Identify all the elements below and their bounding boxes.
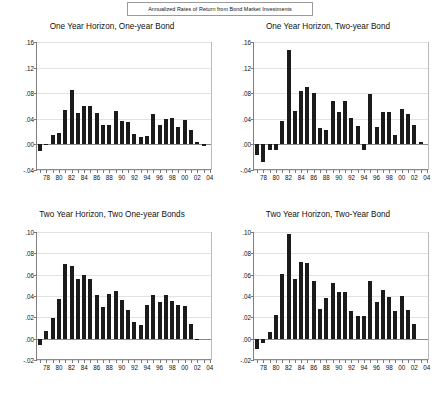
x-tick-mark bbox=[166, 360, 167, 363]
x-tick-mark bbox=[53, 170, 54, 173]
bar bbox=[400, 296, 404, 339]
bar bbox=[356, 126, 360, 145]
x-tick-mark bbox=[414, 360, 415, 363]
x-tick-label: 80 bbox=[272, 364, 279, 371]
bar bbox=[170, 301, 174, 338]
bar bbox=[268, 144, 272, 150]
bar bbox=[82, 106, 86, 144]
x-tick-label: 80 bbox=[272, 174, 279, 181]
chart-panel-one-year-horizon-two-year-bond: One Year Horizon, Two-year Bond.16.12.08… bbox=[221, 22, 435, 208]
bar bbox=[101, 125, 105, 144]
bar bbox=[95, 295, 99, 339]
x-tick-mark bbox=[276, 170, 277, 173]
bar bbox=[158, 302, 162, 338]
plot-frame: .10.08.06.04.02.00-.02788082848688909294… bbox=[253, 232, 429, 360]
bar bbox=[189, 324, 193, 339]
bar bbox=[38, 144, 42, 151]
x-tick-label: 88 bbox=[106, 364, 113, 371]
x-tick-label: 98 bbox=[386, 174, 393, 181]
x-tick-mark bbox=[204, 360, 205, 363]
y-tick-mark bbox=[251, 170, 254, 171]
bar bbox=[120, 300, 124, 338]
y-tick-mark bbox=[251, 360, 254, 361]
x-tick-mark bbox=[326, 170, 327, 173]
y-tick-label: .04 bbox=[242, 293, 251, 300]
bar bbox=[412, 125, 416, 145]
bar-series bbox=[37, 232, 211, 360]
x-tick-label: 02 bbox=[194, 174, 201, 181]
x-tick-label: 80 bbox=[55, 364, 62, 371]
x-tick-mark bbox=[122, 360, 123, 363]
bar bbox=[343, 292, 347, 339]
x-tick-mark bbox=[160, 170, 161, 173]
bar bbox=[88, 279, 92, 339]
document-title-box: Annualized Rates of Return from Bond Mar… bbox=[127, 2, 313, 16]
bar bbox=[151, 114, 155, 145]
x-tick-mark bbox=[59, 360, 60, 363]
x-tick-mark bbox=[389, 360, 390, 363]
x-tick-label: 98 bbox=[169, 364, 176, 371]
bar bbox=[312, 93, 316, 144]
x-tick-label: 96 bbox=[373, 364, 380, 371]
x-tick-label: 90 bbox=[335, 364, 342, 371]
x-tick-mark bbox=[59, 170, 60, 173]
x-tick-mark bbox=[408, 360, 409, 363]
bar bbox=[274, 144, 278, 150]
x-tick-mark bbox=[339, 170, 340, 173]
x-tick-mark bbox=[402, 170, 403, 173]
x-tick-mark bbox=[408, 170, 409, 173]
x-tick-mark bbox=[172, 170, 173, 173]
bar bbox=[164, 295, 168, 339]
bar bbox=[255, 339, 259, 350]
x-tick-label: 88 bbox=[106, 174, 113, 181]
x-tick-mark bbox=[351, 360, 352, 363]
y-tick-label: .04 bbox=[25, 293, 34, 300]
x-tick-mark bbox=[153, 360, 154, 363]
bar bbox=[145, 136, 149, 144]
bar bbox=[406, 114, 410, 144]
y-tick-label: .08 bbox=[242, 250, 251, 257]
x-tick-mark bbox=[204, 170, 205, 173]
y-tick-mark bbox=[34, 170, 37, 171]
bar bbox=[400, 109, 404, 145]
y-tick-label: .08 bbox=[25, 90, 34, 97]
x-tick-mark bbox=[402, 360, 403, 363]
x-tick-label: 00 bbox=[398, 174, 405, 181]
bar bbox=[189, 130, 193, 144]
bar bbox=[76, 279, 80, 339]
x-tick-mark bbox=[345, 360, 346, 363]
x-tick-mark bbox=[383, 170, 384, 173]
bar bbox=[151, 295, 155, 339]
x-tick-label: 04 bbox=[206, 364, 213, 371]
bar bbox=[337, 292, 341, 339]
bar bbox=[375, 127, 379, 144]
x-tick-label: 90 bbox=[118, 364, 125, 371]
x-tick-mark bbox=[377, 360, 378, 363]
x-tick-label: 82 bbox=[285, 174, 292, 181]
x-tick-mark bbox=[370, 170, 371, 173]
bar bbox=[393, 311, 397, 339]
x-tick-mark bbox=[345, 170, 346, 173]
x-tick-mark bbox=[134, 170, 135, 173]
x-tick-mark bbox=[122, 170, 123, 173]
x-tick-label: 90 bbox=[118, 174, 125, 181]
bar bbox=[406, 310, 410, 339]
y-tick-label: .06 bbox=[25, 271, 34, 278]
bar bbox=[126, 122, 130, 144]
bar-series bbox=[254, 232, 428, 360]
chart-title-two-year-horizon-two-year-bond: Two Year Horizon, Two-Year Bond bbox=[221, 210, 435, 219]
x-tick-mark bbox=[301, 360, 302, 363]
document-title: Annualized Rates of Return from Bond Mar… bbox=[148, 6, 292, 12]
plot-area-two-year-horizon-two-year-bond: .10.08.06.04.02.00-.02788082848688909294… bbox=[253, 232, 429, 360]
x-tick-mark bbox=[128, 360, 129, 363]
x-tick-label: 86 bbox=[93, 364, 100, 371]
bar bbox=[132, 134, 136, 145]
bar bbox=[318, 309, 322, 339]
x-tick-label: 84 bbox=[298, 364, 305, 371]
bar bbox=[101, 307, 105, 339]
x-tick-mark bbox=[84, 170, 85, 173]
y-tick-label: .10 bbox=[242, 229, 251, 236]
bar bbox=[337, 112, 341, 145]
x-tick-mark bbox=[307, 360, 308, 363]
bar bbox=[356, 316, 360, 338]
